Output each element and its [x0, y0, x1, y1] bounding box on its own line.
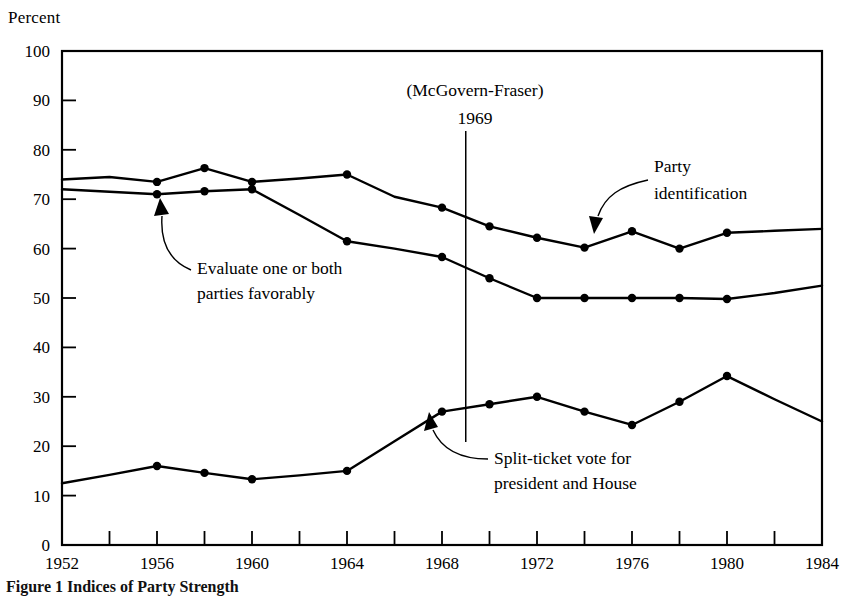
series-1-point-1972 [533, 294, 541, 302]
series-1-point-1958 [200, 187, 208, 195]
data-series-group [62, 164, 822, 484]
series-1-point-1964 [343, 237, 351, 245]
x-axis-ticks [110, 531, 775, 545]
series-2-point-1974 [580, 407, 588, 415]
party-identification-label-line1: Party [654, 156, 691, 176]
series-0-point-1976 [628, 227, 636, 235]
series-2-point-1980 [723, 372, 731, 380]
y-tick-label-10: 10 [33, 487, 50, 506]
evaluate-parties-label-line2: parties favorably [197, 283, 315, 303]
series-0-point-1978 [675, 244, 683, 252]
evaluate-parties-label-line1: Evaluate one or both [197, 258, 343, 278]
y-tick-label-100: 100 [25, 42, 51, 61]
mcgovern-fraser-annotation-line2: 1969 [458, 108, 493, 128]
series-1-point-1976 [628, 294, 636, 302]
evaluate-parties-arrowhead [154, 198, 169, 216]
y-tick-label-50: 50 [33, 289, 50, 308]
x-tick-label-1968: 1968 [425, 554, 459, 573]
y-tick-label-40: 40 [33, 338, 50, 357]
series-2-point-1978 [675, 398, 683, 406]
split-ticket-label-line2: president and House [494, 473, 637, 493]
y-axis-ticks [62, 100, 76, 495]
series-0-point-1958 [200, 164, 208, 172]
x-axis-tick-labels: 195219561960196419681972197619801984 [45, 554, 840, 573]
party-identification-arrowhead [589, 216, 603, 234]
y-tick-label-70: 70 [33, 190, 50, 209]
series-2-point-1972 [533, 393, 541, 401]
split-ticket-label-line1: Split-ticket vote for [494, 448, 631, 468]
series-0-point-1974 [580, 243, 588, 251]
series-1-point-1970 [485, 274, 493, 282]
series-2-point-1964 [343, 467, 351, 475]
y-tick-label-20: 20 [33, 437, 50, 456]
series-2-point-1960 [248, 475, 256, 483]
series-1-point-1974 [580, 294, 588, 302]
figure-container: Percent 0102030405060708090100 195219561… [0, 0, 848, 598]
mcgovern-fraser-annotation-line1: (McGovern-Fraser) [406, 80, 543, 100]
series-0-point-1972 [533, 234, 541, 242]
x-tick-label-1980: 1980 [710, 554, 744, 573]
split-ticket-leader-line [433, 430, 488, 459]
line-chart: 0102030405060708090100 19521956196019641… [0, 0, 848, 598]
series-0-point-1970 [485, 222, 493, 230]
series-1-point-1978 [675, 294, 683, 302]
y-axis-tick-labels: 0102030405060708090100 [25, 42, 51, 555]
series-2-point-1976 [628, 421, 636, 429]
series-0-point-1980 [723, 229, 731, 237]
y-tick-label-60: 60 [33, 240, 50, 259]
x-tick-label-1956: 1956 [140, 554, 174, 573]
series-0-point-1968 [438, 203, 446, 211]
y-tick-label-90: 90 [33, 91, 50, 110]
x-tick-label-1984: 1984 [805, 554, 840, 573]
party-identification-label-line2: identification [654, 183, 748, 203]
x-tick-label-1960: 1960 [235, 554, 269, 573]
series-0-point-1956 [153, 178, 161, 186]
series-2-point-1968 [438, 407, 446, 415]
series-1-point-1956 [153, 190, 161, 198]
series-1-point-1968 [438, 253, 446, 261]
figure-caption: Figure 1 Indices of Party Strength [6, 578, 846, 596]
series-2-point-1956 [153, 462, 161, 470]
x-tick-label-1964: 1964 [330, 554, 365, 573]
x-tick-label-1952: 1952 [45, 554, 79, 573]
series-0-point-1960 [248, 178, 256, 186]
x-tick-label-1972: 1972 [520, 554, 554, 573]
evaluate-parties-leader-line [162, 216, 191, 270]
party-identification-leader-line [598, 180, 648, 216]
y-tick-label-80: 80 [33, 141, 50, 160]
series-2-point-1970 [485, 400, 493, 408]
series-1-point-1960 [248, 185, 256, 193]
series-line-2 [62, 376, 822, 483]
series-1-point-1980 [723, 295, 731, 303]
y-tick-label-30: 30 [33, 388, 50, 407]
series-0-point-1964 [343, 170, 351, 178]
x-tick-label-1976: 1976 [615, 554, 649, 573]
series-2-point-1958 [200, 469, 208, 477]
y-tick-label-0: 0 [42, 536, 51, 555]
